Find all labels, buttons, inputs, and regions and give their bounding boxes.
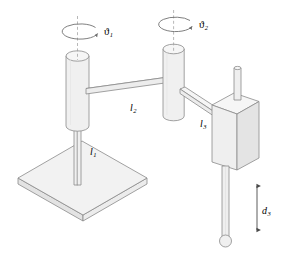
scara-manipulator-drawing — [0, 0, 281, 256]
prismatic-joint-housing — [212, 93, 259, 170]
label-theta2: ϑ2 — [199, 14, 207, 32]
label-d3-symbol: d — [262, 205, 267, 216]
label-theta2-symbol: ϑ — [199, 19, 204, 30]
label-d3: d3 — [262, 200, 270, 218]
label-l1: l1 — [90, 141, 96, 159]
end-effector-ball — [220, 235, 232, 247]
revolute-joint-1-cylinder — [66, 51, 89, 131]
revolute-joint-2-cylinder — [163, 44, 184, 121]
base-plate — [18, 141, 147, 221]
rotation-arrow-joint-1 — [62, 24, 97, 39]
scara-manipulator-figure: ϑ1 ϑ2 l1 l2 l3 d3 — [0, 0, 281, 256]
rotation-arrow-joint-2 — [159, 17, 192, 31]
label-l3-subscript: 3 — [203, 123, 206, 130]
label-l2: l2 — [130, 97, 136, 115]
label-l2-subscript: 2 — [133, 107, 136, 114]
label-theta1-symbol: ϑ — [104, 26, 109, 37]
label-l1-subscript: 1 — [93, 151, 96, 158]
label-l3: l3 — [200, 113, 206, 131]
label-d3-subscript: 3 — [268, 210, 271, 217]
label-theta2-subscript: 2 — [205, 24, 208, 31]
label-theta1: ϑ1 — [104, 21, 112, 39]
label-theta1-subscript: 1 — [110, 31, 113, 38]
